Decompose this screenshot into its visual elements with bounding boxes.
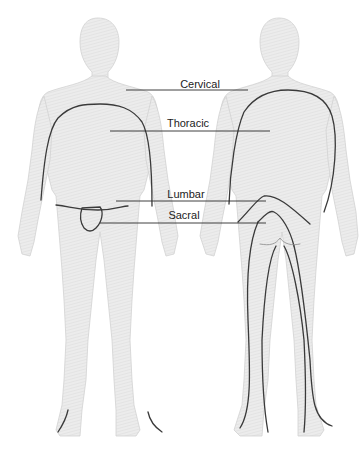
label-lumbar: Lumbar	[167, 189, 204, 200]
anatomy-diagram	[0, 0, 362, 452]
back-body-figure	[200, 18, 358, 436]
front-head	[80, 18, 119, 80]
label-sacral: Sacral	[168, 210, 199, 221]
front-right-foot-line	[148, 412, 162, 432]
label-thoracic: Thoracic	[167, 118, 209, 129]
back-head	[260, 18, 299, 80]
front-torso-legs	[38, 76, 158, 436]
back-right-arm	[326, 96, 358, 256]
front-body-figure	[18, 18, 178, 436]
label-cervical: Cervical	[180, 79, 220, 90]
front-left-arm	[18, 96, 52, 256]
